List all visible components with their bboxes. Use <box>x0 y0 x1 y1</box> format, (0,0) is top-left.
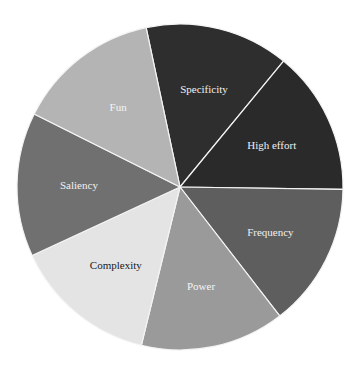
slice-label: High effort <box>247 139 296 151</box>
slice-label: Specificity <box>180 83 228 95</box>
slice-label: Fun <box>110 101 128 113</box>
slice-label: Complexity <box>90 259 142 271</box>
slice-label: Saliency <box>60 179 98 191</box>
slice-label: Power <box>187 280 215 292</box>
pie-chart: SpecificityHigh effortFrequencyPowerComp… <box>0 0 361 370</box>
slice-label: Frequency <box>247 226 294 238</box>
